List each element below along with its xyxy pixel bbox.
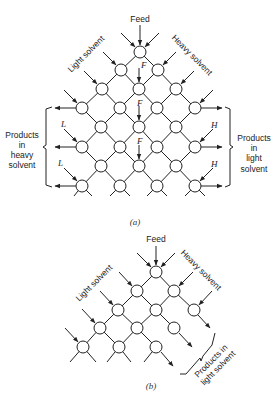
svg-text:solvent: solvent (9, 160, 37, 170)
h-label-1: H (210, 120, 218, 130)
heavy-solvent-label-a: Heavy solvent (170, 32, 215, 77)
heavy-solvent-label-b: Heavy solvent (179, 247, 224, 292)
f-label-3: F (136, 136, 143, 146)
feed-label-b: Feed (146, 234, 166, 244)
svg-text:in: in (251, 143, 258, 153)
brace-right-a (225, 107, 233, 187)
svg-text:light: light (246, 153, 262, 163)
l-label-2: L (57, 158, 63, 168)
products-light-label-b: Products in light solvent (192, 342, 237, 387)
products-light-label: Products in light solvent (237, 133, 271, 174)
l-label-1: L (60, 119, 66, 129)
caption-b: (b) (146, 381, 157, 391)
light-solvent-label-a: Light solvent (65, 33, 106, 74)
svg-text:heavy: heavy (11, 150, 34, 160)
brace-left-a (43, 107, 52, 187)
h-label-2: H (210, 159, 218, 169)
extraction-cascade-figure: Feed Light solvent Heavy solvent F F F L… (0, 0, 277, 399)
f-label-1: F (140, 60, 147, 70)
light-solvent-label-b: Light solvent (73, 262, 114, 303)
svg-text:in: in (19, 140, 26, 150)
f-label-2: F (136, 98, 143, 108)
products-heavy-label: Products in heavy solvent (5, 130, 39, 170)
svg-text:Products: Products (237, 133, 271, 143)
caption-a: (a) (130, 217, 141, 227)
figure-b: Feed Light solvent Heavy solvent Product… (65, 234, 238, 391)
svg-text:Products: Products (5, 130, 39, 140)
figure-a: Feed Light solvent Heavy solvent F F F L… (5, 14, 271, 227)
feed-label-a: Feed (130, 14, 150, 24)
svg-text:solvent: solvent (241, 164, 269, 174)
